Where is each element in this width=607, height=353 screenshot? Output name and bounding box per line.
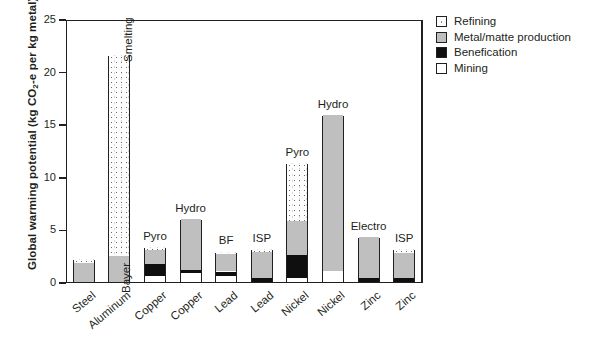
bar-segment-mining — [181, 273, 201, 282]
legend-swatch-mining — [436, 63, 447, 74]
bar-segment-metal — [394, 253, 414, 279]
bar-segment-refining — [287, 163, 307, 221]
legend-label-metal: Metal/matte production — [454, 32, 571, 44]
bar-segment-metal — [252, 252, 272, 278]
bar-segment-benefication — [216, 272, 236, 277]
bar-aluminum-2[interactable] — [108, 56, 130, 283]
bar-segment-benefication — [145, 264, 165, 276]
bar-segment-mining — [145, 276, 165, 282]
bar-annotation-pyro: Pyro — [143, 230, 167, 242]
bar-copper-4[interactable] — [180, 220, 202, 283]
plot-right-border — [421, 20, 423, 283]
bar-segment-benefication — [394, 278, 414, 282]
legend-item-metal[interactable]: Metal/matte production — [436, 30, 571, 46]
legend-label-mining: Mining — [454, 63, 488, 75]
y-tick-15 — [59, 124, 66, 126]
legend-label-benefication: Benefication — [454, 47, 517, 59]
y-tick-10 — [59, 177, 66, 179]
bar-segment-metal — [74, 263, 94, 282]
y-tick-label-15: 15 — [30, 118, 56, 130]
bar-annotation-electro: Electro — [351, 220, 387, 232]
legend-swatch-benefication — [436, 47, 447, 58]
bar-annotation-smelting: Smelting — [122, 17, 134, 62]
bar-lead-6[interactable] — [251, 250, 273, 283]
bar-lead-5[interactable] — [215, 253, 237, 284]
bar-segment-benefication — [252, 278, 272, 282]
bar-segment-metal — [216, 254, 236, 271]
bar-segment-mining — [287, 278, 307, 282]
y-tick-20 — [59, 72, 66, 74]
legend-item-benefication[interactable]: Benefication — [436, 45, 571, 61]
bar-annotation-isp: ISP — [253, 232, 272, 244]
bar-annotation-bayer: Bayer — [120, 263, 132, 293]
bar-annotation-hydro: Hydro — [175, 202, 206, 214]
chart-figure: Global warming potential (kg CO2-e per k… — [0, 0, 607, 353]
bar-segment-metal — [181, 219, 201, 270]
bar-segment-refining — [216, 252, 236, 255]
y-tick-label-25: 25 — [30, 13, 56, 25]
bar-annotation-bf: BF — [219, 234, 234, 246]
bar-segment-metal — [359, 237, 379, 279]
y-axis-title-sub: 2 — [31, 84, 40, 89]
chart-legend: RefiningMetal/matte productionBeneficati… — [436, 14, 571, 76]
bar-segment-refining — [252, 249, 272, 252]
y-tick-label-0: 0 — [30, 276, 56, 288]
bar-segment-metal — [145, 250, 165, 264]
y-tick-label-20: 20 — [30, 66, 56, 78]
y-tick-25 — [59, 19, 66, 21]
bar-segment-benefication — [287, 255, 307, 278]
legend-item-mining[interactable]: Mining — [436, 61, 571, 77]
y-tick-label-5: 5 — [30, 223, 56, 235]
bar-segment-mining — [216, 276, 236, 282]
bar-segment-refining — [394, 249, 414, 252]
bar-zinc-10[interactable] — [393, 250, 415, 283]
legend-swatch-metal — [436, 32, 447, 43]
bar-segment-refining — [109, 55, 129, 256]
bar-segment-refining — [145, 247, 165, 250]
y-tick-label-10: 10 — [30, 171, 56, 183]
legend-swatch-refining — [436, 16, 447, 27]
bar-segment-metal — [287, 221, 307, 255]
legend-label-refining: Refining — [454, 16, 496, 28]
bar-annotation-isp: ISP — [395, 232, 414, 244]
y-tick-5 — [59, 230, 66, 232]
bar-zinc-9[interactable] — [358, 238, 380, 283]
bar-segment-refining — [74, 259, 94, 263]
bar-nickel-8[interactable] — [322, 116, 344, 283]
bar-segment-benefication — [181, 270, 201, 273]
bar-steel-1[interactable] — [73, 260, 95, 283]
bar-segment-metal — [323, 115, 343, 272]
bar-annotation-hydro: Hydro — [318, 98, 349, 110]
y-tick-0 — [59, 282, 66, 284]
legend-item-refining[interactable]: Refining — [436, 14, 571, 30]
bar-nickel-7[interactable] — [286, 164, 308, 283]
bar-segment-mining — [323, 271, 343, 282]
bar-annotation-pyro: Pyro — [286, 146, 310, 158]
bar-copper-3[interactable] — [144, 248, 166, 283]
bar-segment-benefication — [359, 278, 379, 282]
